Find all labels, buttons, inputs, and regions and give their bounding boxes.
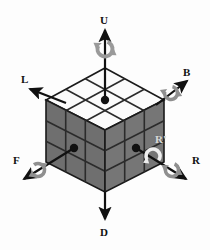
axis-label-B: B: [183, 67, 190, 78]
front-center-dot: [70, 144, 78, 152]
axis-label-R-prime: R': [155, 134, 166, 145]
up-center-dot: [101, 96, 109, 104]
axis-label-U: U: [100, 15, 108, 26]
right-center-dot: [132, 144, 140, 152]
axis-label-L: L: [21, 74, 28, 85]
axis-label-F: F: [13, 155, 20, 166]
cube-diagram-canvas: [0, 0, 210, 250]
rubiks-cube-axis-diagram: U D L B F R R': [0, 0, 210, 250]
axis-label-R: R: [192, 155, 200, 166]
axis-label-D: D: [100, 227, 108, 238]
axis-arrow-B: [156, 81, 187, 105]
